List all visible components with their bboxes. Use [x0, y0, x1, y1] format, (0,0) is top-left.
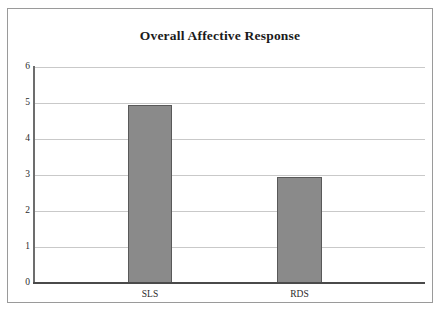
- gridline-1: [34, 247, 425, 248]
- y-tick-label-3: 3: [4, 169, 30, 179]
- y-tick-label-1: 1: [4, 241, 30, 251]
- chart-figure: Overall Affective Response 6543210 SLSRD…: [0, 0, 440, 315]
- y-tick-label-2: 2: [4, 205, 30, 215]
- y-axis-tick-labels: 6543210: [0, 0, 30, 315]
- bar-rds: [277, 177, 322, 283]
- gridline-6: [34, 67, 425, 68]
- x-axis-line: [33, 282, 425, 284]
- y-tick-label-4: 4: [4, 133, 30, 143]
- y-tick-label-6: 6: [4, 61, 30, 71]
- gridline-3: [34, 175, 425, 176]
- gridline-5: [34, 103, 425, 104]
- y-axis-line: [33, 66, 35, 284]
- plot-area: [34, 67, 425, 283]
- gridline-4: [34, 139, 425, 140]
- bar-sls: [128, 105, 172, 283]
- x-category-label-sls: SLS: [98, 289, 202, 299]
- y-tick-label-0: 0: [4, 277, 30, 287]
- y-tick-label-5: 5: [4, 97, 30, 107]
- chart-title: Overall Affective Response: [0, 28, 440, 44]
- gridline-2: [34, 211, 425, 212]
- x-category-label-rds: RDS: [247, 289, 352, 299]
